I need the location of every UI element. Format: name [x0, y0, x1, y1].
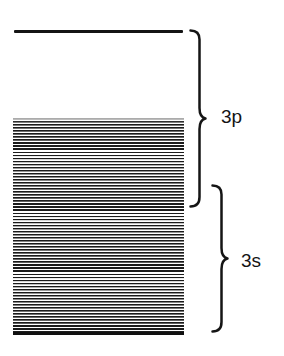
- energy-band-stripes: [13, 118, 184, 335]
- band-label-3s: 3s: [241, 251, 261, 270]
- brace-3s: [208, 179, 234, 339]
- energy-band-region: [13, 118, 184, 335]
- energy-band-bottom-edge-line: [13, 332, 184, 335]
- band-label-3p: 3p: [221, 107, 242, 126]
- brace-3p-path: [191, 31, 206, 207]
- upper-energy-level-line: [14, 30, 183, 33]
- brace-3s-path: [213, 186, 228, 332]
- energy-level-diagram: 3p 3s: [0, 0, 284, 356]
